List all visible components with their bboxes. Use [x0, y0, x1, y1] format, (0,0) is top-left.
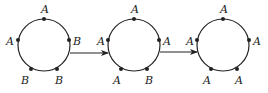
- state-circle: [18, 19, 70, 71]
- state-1: ABBBA: [5, 3, 81, 87]
- node-label: B: [144, 74, 153, 87]
- node-label: B: [72, 35, 81, 48]
- node-dot: [235, 67, 239, 71]
- state-3: AAAAA: [185, 3, 261, 87]
- node-dot: [119, 67, 123, 71]
- node-label: B: [54, 74, 63, 87]
- node-dot: [29, 67, 33, 71]
- node-label: A: [130, 3, 139, 16]
- node-dot: [55, 67, 59, 71]
- node-dot: [209, 67, 213, 71]
- node-dot: [157, 38, 161, 42]
- node-label: A: [202, 74, 211, 87]
- node-dot: [42, 17, 46, 21]
- node-dot: [145, 67, 149, 71]
- node-label: A: [162, 35, 171, 48]
- node-dot: [106, 38, 110, 42]
- node-label: A: [219, 3, 228, 16]
- node-dot: [195, 38, 199, 42]
- node-dot: [132, 17, 136, 21]
- node-label: A: [185, 35, 194, 48]
- node-dot: [221, 17, 225, 21]
- node-label: A: [252, 35, 261, 48]
- state-transition-diagram: ABBBAAABAAAAAAA: [0, 0, 268, 93]
- node-label: B: [20, 74, 29, 87]
- node-dot: [16, 38, 20, 42]
- state-circle: [197, 19, 249, 71]
- node-label: A: [112, 74, 121, 87]
- node-label: A: [40, 3, 49, 16]
- state-2: AABAA: [96, 3, 171, 87]
- node-dot: [247, 38, 251, 42]
- node-label: A: [5, 35, 14, 48]
- state-circle: [108, 19, 160, 71]
- node-dot: [67, 38, 71, 42]
- node-label: A: [234, 74, 243, 87]
- node-label: A: [96, 35, 105, 48]
